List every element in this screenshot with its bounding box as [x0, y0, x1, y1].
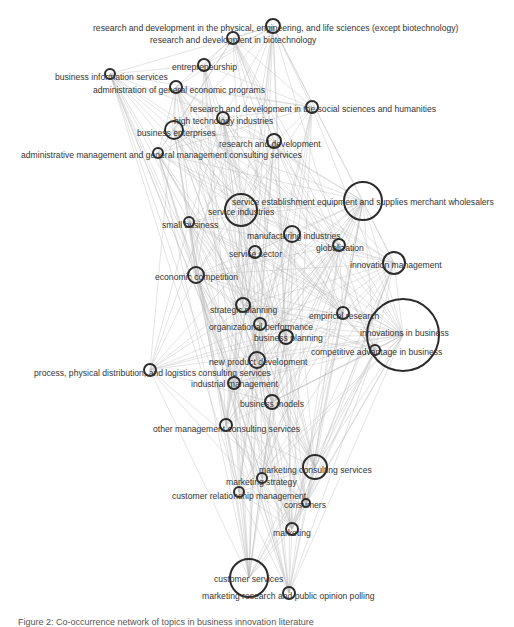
- node-label: research and development in the social s…: [190, 104, 436, 114]
- graph-edge: [233, 38, 312, 107]
- node-label: empirical research: [309, 311, 379, 321]
- node-label: service establishment equipment and supp…: [232, 197, 494, 207]
- node-label: marketing research and public opinion po…: [202, 591, 375, 601]
- node-label: marketing strategy: [226, 477, 297, 487]
- node-label: organizational performance: [209, 322, 313, 332]
- node-label: strategic planning: [210, 305, 278, 315]
- node-label: marketing consulting services: [259, 465, 372, 475]
- node-label: research and development in the physical…: [93, 23, 459, 33]
- node-label: service sector: [229, 249, 282, 259]
- node-label: research and development in biotechnolog…: [150, 35, 317, 45]
- node-label: business planning: [254, 333, 323, 343]
- node-label: business models: [240, 399, 304, 409]
- node-label: entrepreneurship: [172, 62, 237, 72]
- node-label: administration of general economic progr…: [93, 85, 265, 95]
- node-label: innovations in business: [360, 328, 449, 338]
- node-label: service industries: [208, 207, 274, 217]
- node-label: competitive advantage in business: [311, 347, 442, 357]
- node-label: high technology industries: [174, 116, 273, 126]
- node-label: business information services: [55, 72, 168, 82]
- node-label: industrial management: [191, 379, 279, 389]
- node-label: administrative management and general ma…: [21, 150, 302, 160]
- node-label: economic competition: [155, 272, 238, 282]
- node-label: other management consulting services: [153, 424, 300, 434]
- node-label: research and development: [219, 139, 321, 149]
- node-label: marketing: [273, 528, 311, 538]
- node-label: customer services: [214, 574, 283, 584]
- node-label: consumers: [284, 500, 326, 510]
- graph-edge: [239, 492, 249, 578]
- node-label: manufacturing industries: [247, 231, 341, 241]
- figure-caption: Figure 2: Co-occurrence network of topic…: [18, 617, 314, 627]
- node-label: globalization: [316, 243, 364, 253]
- node-label: innovation management: [350, 260, 442, 270]
- node-label: small business: [162, 220, 218, 230]
- node-label: process, physical distribution, and logi…: [34, 368, 271, 378]
- node-label: new product development: [209, 357, 308, 367]
- node-label: business enterprises: [137, 128, 216, 138]
- graph-edge: [150, 275, 196, 370]
